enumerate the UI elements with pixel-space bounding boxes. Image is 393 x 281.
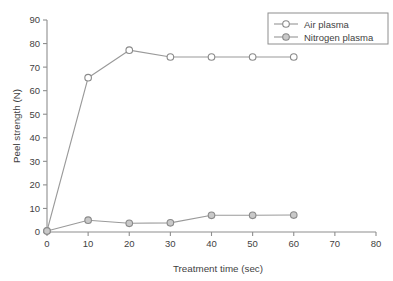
data-point-air-plasma <box>249 54 256 61</box>
x-tick-label: 10 <box>83 238 94 249</box>
y-tick-label: 10 <box>29 203 40 214</box>
data-point-air-plasma <box>85 74 92 81</box>
data-point-nitrogen-plasma <box>85 217 92 224</box>
data-point-nitrogen-plasma <box>126 220 133 227</box>
x-tick-label: 60 <box>288 238 299 249</box>
data-series-group <box>44 47 297 235</box>
x-axis-ticks: 01020304050607080 <box>44 232 381 249</box>
x-tick-label: 0 <box>44 238 49 249</box>
data-point-nitrogen-plasma <box>44 228 51 235</box>
legend-label-nitrogen-plasma: Nitrogen plasma <box>304 32 374 43</box>
y-tick-label: 80 <box>29 38 40 49</box>
x-tick-label: 70 <box>330 238 341 249</box>
x-axis-title: Treatment time (sec) <box>173 263 263 274</box>
x-tick-label: 30 <box>165 238 176 249</box>
legend-marker-nitrogen-plasma <box>283 34 290 41</box>
data-point-nitrogen-plasma <box>290 212 297 219</box>
y-tick-label: 50 <box>29 109 40 120</box>
legend-label-air-plasma: Air plasma <box>304 19 350 30</box>
x-tick-label: 20 <box>124 238 135 249</box>
y-tick-label: 0 <box>35 226 40 237</box>
chart-legend: Air plasma Nitrogen plasma <box>268 13 388 44</box>
y-tick-label: 70 <box>29 62 40 73</box>
y-axis-ticks: 0102030405060708090 <box>29 14 47 237</box>
y-tick-label: 30 <box>29 156 40 167</box>
series-air-plasma <box>44 47 297 234</box>
data-point-air-plasma <box>167 54 174 61</box>
chart-figure: Peel strength (N) Treatment time (sec) 0… <box>0 0 393 281</box>
y-tick-label: 20 <box>29 179 40 190</box>
x-tick-label: 50 <box>247 238 258 249</box>
data-point-nitrogen-plasma <box>249 212 256 219</box>
data-point-nitrogen-plasma <box>208 212 215 219</box>
x-tick-label: 40 <box>206 238 217 249</box>
series-line-air-plasma <box>47 50 294 231</box>
data-point-air-plasma <box>208 54 215 61</box>
x-tick-label: 80 <box>371 238 382 249</box>
data-point-nitrogen-plasma <box>167 220 174 227</box>
y-tick-label: 60 <box>29 85 40 96</box>
y-tick-label: 40 <box>29 132 40 143</box>
series-nitrogen-plasma <box>44 212 297 235</box>
y-tick-label: 90 <box>29 14 40 25</box>
data-point-air-plasma <box>290 54 297 61</box>
line-chart: Peel strength (N) Treatment time (sec) 0… <box>0 0 393 281</box>
legend-marker-air-plasma <box>283 21 290 28</box>
data-point-air-plasma <box>126 47 133 54</box>
y-axis-title: Peel strength (N) <box>11 89 22 163</box>
